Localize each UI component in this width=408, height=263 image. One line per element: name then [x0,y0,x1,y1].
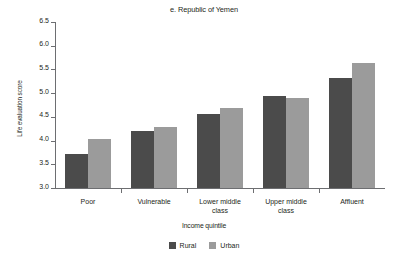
bar-rural[interactable] [131,131,154,188]
bars-layer [55,22,385,188]
bar-rural[interactable] [65,154,88,188]
y-axis-tick-label: 5.0 [39,88,49,95]
x-axis-tick-mark [253,188,254,193]
y-axis-tick-label: 5.5 [39,64,49,71]
bar-urban[interactable] [220,108,243,188]
bar-urban[interactable] [154,127,177,188]
x-axis-tick-label-line: Affluent [319,198,385,207]
chart-title: e. Republic of Yemen [0,5,408,14]
y-axis-tick-label: 4.5 [39,111,49,118]
x-axis-tick-label-line: Lower middle [187,198,253,207]
x-axis-tick-label: Upper middleclass [253,198,319,215]
chart-legend: RuralUrban [0,242,408,249]
y-axis-tick-label: 4.0 [39,135,49,142]
bar-group [121,22,187,188]
x-axis-tick-mark [319,188,320,193]
x-axis-tick-label-line: class [253,207,319,216]
y-axis-title: Life evaluation score [16,49,23,169]
bar-rural[interactable] [263,96,286,188]
bar-urban[interactable] [88,139,111,188]
x-axis-tick-label: Poor [55,198,121,207]
x-axis-tick-label-line: class [187,207,253,216]
y-axis-tick-label: 6.5 [39,17,49,24]
y-axis-tick-label: 3.5 [39,159,49,166]
legend-swatch-icon [169,242,176,249]
x-axis-tick-label-line: Poor [55,198,121,207]
legend-item-urban[interactable]: Urban [209,242,239,249]
x-axis-tick-label: Vulnerable [121,198,187,207]
bar-rural[interactable] [329,78,352,188]
legend-item-rural[interactable]: Rural [169,242,197,249]
chart-figure: e. Republic of Yemen Life evaluation sco… [0,0,408,263]
bar-group [253,22,319,188]
legend-swatch-icon [209,242,216,249]
plot-area: 6.56.05.55.04.54.03.53.0 PoorVulnerableL… [55,22,385,188]
y-axis-tick-label: 3.0 [39,183,49,190]
legend-item-label: Urban [220,242,239,249]
bar-urban[interactable] [286,98,309,188]
legend-item-label: Rural [180,242,197,249]
x-axis-title: Income quintile [0,222,408,229]
bar-group [319,22,385,188]
x-axis-tick-label: Lower middleclass [187,198,253,215]
x-axis-tick-label: Affluent [319,198,385,207]
bar-urban[interactable] [352,63,375,188]
y-axis-tick-label: 6.0 [39,40,49,47]
bar-group [55,22,121,188]
bar-group [187,22,253,188]
x-axis-tick-mark [187,188,188,193]
x-axis-tick-label-line: Upper middle [253,198,319,207]
x-axis-tick-label-line: Vulnerable [121,198,187,207]
y-axis-tick-mark [51,188,55,189]
bar-rural[interactable] [197,114,220,188]
x-axis-tick-mark [121,188,122,193]
